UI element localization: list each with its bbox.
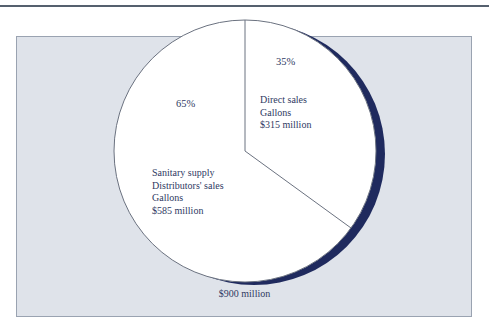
direct-sales-line-3: $315 million xyxy=(260,119,311,132)
slice-label-distributor-sales: Sanitary supply Distributors' sales Gall… xyxy=(152,167,224,217)
chart-total-label: $900 million xyxy=(0,288,489,301)
chart-labels: 35% 65% Direct sales Gallons $315 millio… xyxy=(0,0,489,330)
distributor-sales-line-4: $585 million xyxy=(152,205,224,218)
distributor-sales-line-1: Sanitary supply xyxy=(152,167,224,180)
direct-sales-line-1: Direct sales xyxy=(260,94,311,107)
chart-total-value: $900 million xyxy=(219,288,270,301)
slice-label-direct-sales: Direct sales Gallons $315 million xyxy=(260,94,311,132)
distributor-sales-line-3: Gallons xyxy=(152,192,224,205)
figure-container: 35% 65% Direct sales Gallons $315 millio… xyxy=(0,0,489,330)
slice-percent-distributor-sales: 65% xyxy=(176,98,195,111)
slice-percent-direct-sales: 35% xyxy=(276,56,295,69)
direct-sales-line-2: Gallons xyxy=(260,107,311,120)
distributor-sales-line-2: Distributors' sales xyxy=(152,180,224,193)
